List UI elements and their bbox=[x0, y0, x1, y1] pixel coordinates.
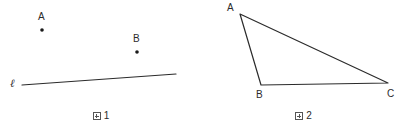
point-a-label: A bbox=[38, 12, 45, 22]
vertex-a-label: A bbox=[227, 3, 234, 13]
figure-2-caption-number: 2 bbox=[306, 110, 312, 121]
cjk-tofu-icon bbox=[295, 112, 303, 120]
figure-1-caption: 1 bbox=[0, 110, 202, 122]
point-b-label: B bbox=[133, 34, 140, 44]
figure-1-caption-number: 1 bbox=[104, 110, 110, 121]
figure-2-panel: A B C 2 bbox=[202, 0, 405, 128]
triangle-abc-shape bbox=[240, 14, 388, 85]
figure-2-geometry bbox=[202, 0, 405, 128]
vertex-b-label: B bbox=[256, 90, 263, 100]
cjk-tofu-icon bbox=[93, 112, 101, 120]
figure-1-panel: A B ℓ 1 bbox=[0, 0, 202, 128]
figure-2-caption: 2 bbox=[202, 110, 405, 122]
line-l-segment bbox=[22, 74, 176, 85]
line-l-label: ℓ bbox=[10, 78, 15, 89]
point-b-dot bbox=[135, 50, 139, 54]
vertex-c-label: C bbox=[387, 89, 394, 99]
point-a-dot bbox=[40, 28, 44, 32]
figure-1-geometry bbox=[0, 0, 202, 128]
